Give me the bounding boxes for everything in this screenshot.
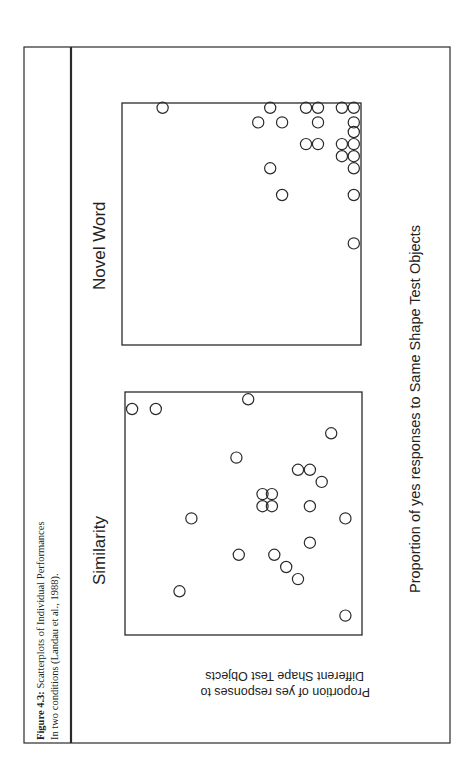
data-point-circle — [277, 117, 288, 128]
data-point-circle — [150, 403, 161, 414]
data-point-circle — [304, 464, 315, 475]
svg-text:Figure 4.3: Scatterplots of In: Figure 4.3: Scatterplots of Individual P… — [35, 521, 46, 740]
figure-page: Figure 4.3: Scatterplots of Individual P… — [0, 0, 469, 782]
data-point-circle — [292, 574, 303, 585]
data-point-circle — [304, 501, 315, 512]
caption-subtitle: In two conditions (Landau et al., 1988). — [49, 573, 61, 740]
data-point-circle — [243, 394, 254, 405]
data-point-circle — [312, 117, 323, 128]
data-point-circle — [326, 428, 337, 439]
novel-word-plot-frame — [122, 103, 361, 345]
data-point-circle — [336, 139, 347, 150]
data-point-circle — [186, 513, 197, 524]
data-point-circle — [127, 403, 138, 414]
data-point-circle — [265, 102, 276, 113]
data-point-circle — [312, 139, 323, 150]
data-point-circle — [292, 464, 303, 475]
data-point-circle — [253, 117, 264, 128]
figure-caption: Figure 4.3: Scatterplots of Individual P… — [35, 521, 61, 740]
data-point-circle — [304, 537, 315, 548]
x-axis-label: Proportion of yes responses to Same Shap… — [407, 225, 423, 593]
data-point-circle — [348, 139, 359, 150]
data-point-circle — [174, 586, 185, 597]
caption-title: Scatterplots of Individual Performances — [35, 521, 46, 691]
y-axis-label-line1: Proportion of yes responses to — [200, 685, 370, 699]
figure-frame — [24, 47, 450, 743]
data-point-circle — [231, 452, 242, 463]
novel-word-panel-title: Novel Word — [90, 202, 109, 291]
data-point-circle — [348, 163, 359, 174]
data-point-circle — [300, 102, 311, 113]
similarity-panel-title: Similarity — [90, 516, 109, 585]
data-point-circle — [281, 561, 292, 572]
novel-word-scatter-points — [157, 102, 359, 249]
data-point-circle — [348, 102, 359, 113]
data-point-circle — [300, 139, 311, 150]
caption-label: Figure 4.3: — [35, 691, 46, 740]
similarity-scatter-points — [127, 394, 352, 622]
data-point-circle — [233, 549, 244, 560]
y-axis-label: Proportion of yes responses to Different… — [200, 669, 370, 699]
data-point-circle — [277, 189, 288, 200]
data-point-circle — [340, 513, 351, 524]
data-point-circle — [348, 151, 359, 162]
data-point-circle — [157, 102, 168, 113]
data-point-circle — [312, 102, 323, 113]
similarity-plot-frame — [125, 392, 362, 635]
data-point-circle — [336, 102, 347, 113]
data-point-circle — [316, 476, 327, 487]
data-point-circle — [348, 189, 359, 200]
data-point-circle — [336, 151, 347, 162]
data-point-circle — [265, 163, 276, 174]
data-point-circle — [348, 238, 359, 249]
data-point-circle — [269, 549, 280, 560]
data-point-circle — [340, 610, 351, 621]
y-axis-label-line2: Different Shape Test Objects — [205, 669, 364, 683]
